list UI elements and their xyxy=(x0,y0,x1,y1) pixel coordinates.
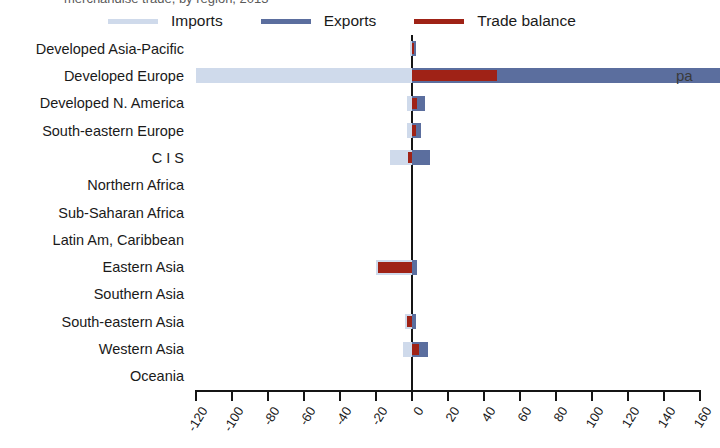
legend-label-imports: Imports xyxy=(171,12,223,30)
axis-tick xyxy=(303,390,305,401)
clipped-edge-text: pa xyxy=(676,67,693,84)
axis-tick xyxy=(519,390,521,401)
bar-trade-balance xyxy=(412,125,416,136)
clipped-caption-text: merchandise trade, by region, 2013 xyxy=(64,0,269,6)
category-label: South-eastern Asia xyxy=(61,315,184,330)
category-label: Eastern Asia xyxy=(103,260,184,275)
category-label: Oceania xyxy=(130,369,184,384)
bar-trade-balance xyxy=(378,262,412,273)
zero-axis-line xyxy=(411,35,413,390)
category-label: Sub-Saharan Africa xyxy=(58,206,184,221)
bar-trade-balance xyxy=(412,43,414,54)
legend-swatch-imports-icon xyxy=(108,19,158,24)
bar-exports xyxy=(412,314,416,329)
category-label: Developed Asia-Pacific xyxy=(36,42,184,57)
chart-legend: Imports Exports Trade balance xyxy=(0,9,700,33)
axis-tick xyxy=(267,390,269,401)
axis-tick xyxy=(339,390,341,401)
legend-label-exports: Exports xyxy=(324,12,377,30)
axis-tick xyxy=(195,390,197,401)
bar-exports xyxy=(412,260,417,275)
bar-imports xyxy=(196,68,412,83)
category-label: Southern Asia xyxy=(94,287,184,302)
clipped-caption: merchandise trade, by region, 2013 xyxy=(0,0,700,9)
legend-item-exports: Exports xyxy=(261,12,377,30)
axis-tick xyxy=(411,390,413,401)
axis-tick xyxy=(663,390,665,401)
bar-trade-balance xyxy=(412,98,417,109)
legend-label-trade-balance: Trade balance xyxy=(477,12,576,30)
axis-tick xyxy=(627,390,629,401)
legend-item-trade-balance: Trade balance xyxy=(414,12,576,30)
legend-item-imports: Imports xyxy=(108,12,223,30)
legend-swatch-exports-icon xyxy=(261,19,311,24)
axis-tick xyxy=(483,390,485,401)
category-label: Latin Am, Caribbean xyxy=(53,233,184,248)
category-label: Northern Africa xyxy=(87,178,184,193)
axis-tick xyxy=(699,390,701,401)
bar-trade-balance xyxy=(408,152,412,163)
plot-area xyxy=(196,35,700,390)
bar-trade-balance xyxy=(407,316,412,327)
axis-tick xyxy=(555,390,557,401)
value-axis: -120-100-80-60-40-2002040608010012014016… xyxy=(196,390,700,448)
category-label: Developed N. America xyxy=(40,96,184,111)
category-label: C I S xyxy=(152,151,184,166)
axis-tick xyxy=(591,390,593,401)
bar-trade-balance xyxy=(412,70,497,81)
bar-exports xyxy=(412,150,430,165)
axis-tick xyxy=(231,390,233,401)
axis-tick xyxy=(447,390,449,401)
category-axis-labels: Developed Asia-PacificDeveloped EuropeDe… xyxy=(0,35,190,390)
bar-imports xyxy=(403,342,412,357)
axis-tick xyxy=(375,390,377,401)
category-label: South-eastern Europe xyxy=(42,124,184,139)
legend-swatch-trade-balance-icon xyxy=(414,19,464,24)
category-label: Western Asia xyxy=(99,342,184,357)
axis-tick-label: -120 xyxy=(165,404,211,448)
bar-trade-balance xyxy=(412,344,419,355)
category-label: Developed Europe xyxy=(64,69,184,84)
